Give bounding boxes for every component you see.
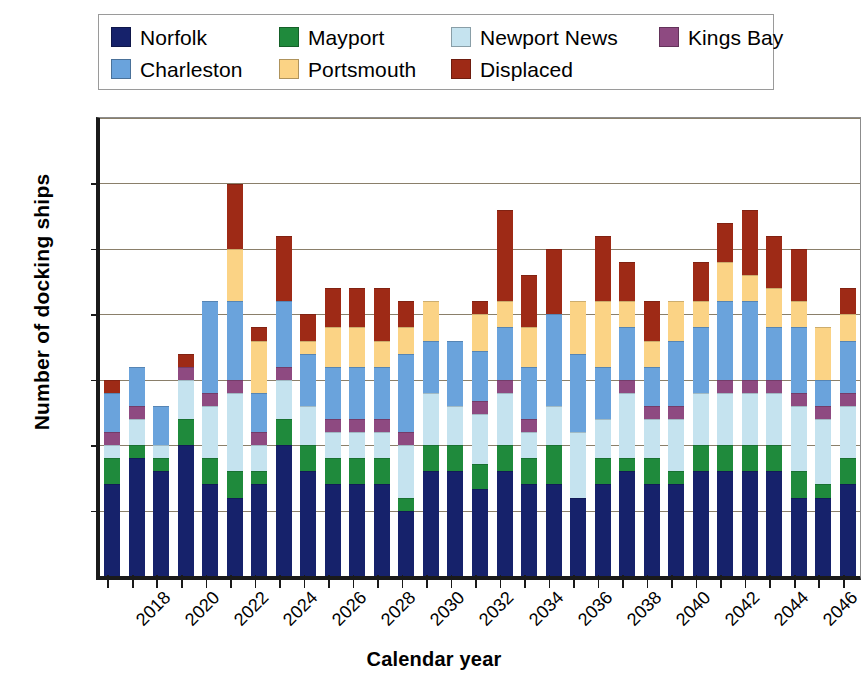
bar-segment-norfolk xyxy=(668,484,684,576)
bar-segment-kings-bay xyxy=(840,393,856,406)
x-tick-mark xyxy=(720,575,722,588)
bar-segment-charleston xyxy=(668,341,684,406)
legend-item-kings-bay[interactable]: Kings Bay xyxy=(659,27,783,48)
stacked-bar[interactable] xyxy=(644,301,660,576)
stacked-bar[interactable] xyxy=(251,327,267,576)
bar-segment-newport-news xyxy=(227,393,243,472)
bar-segment-newport-news xyxy=(300,406,316,445)
stacked-bar[interactable] xyxy=(276,236,292,576)
bar-segment-portsmouth xyxy=(349,327,365,366)
bar-segment-mayport xyxy=(276,419,292,445)
bar-segment-displaced xyxy=(693,262,709,301)
bar-segment-mayport xyxy=(325,458,341,484)
legend-item-norfolk[interactable]: Norfolk xyxy=(111,27,207,48)
legend-label: Norfolk xyxy=(140,27,207,48)
stacked-bar[interactable] xyxy=(693,262,709,576)
stacked-bar[interactable] xyxy=(178,354,194,576)
stacked-bar[interactable] xyxy=(374,288,390,576)
legend-item-charleston[interactable]: Charleston xyxy=(111,59,243,80)
bar-segment-newport-news xyxy=(251,445,267,471)
stacked-bar[interactable] xyxy=(104,380,120,576)
bar-segment-mayport xyxy=(153,458,169,471)
y-tick-mark xyxy=(91,249,100,251)
bar-segment-displaced xyxy=(276,236,292,301)
stacked-bar[interactable] xyxy=(840,288,856,576)
bar-segment-newport-news xyxy=(497,393,513,445)
bar-segment-newport-news xyxy=(178,380,194,419)
stacked-bar[interactable] xyxy=(791,249,807,576)
stacked-bar[interactable] xyxy=(546,236,562,576)
x-tick-mark xyxy=(132,575,134,588)
bar-segment-displaced xyxy=(472,301,488,314)
legend-swatch-icon xyxy=(111,59,131,79)
bar-segment-norfolk xyxy=(300,471,316,576)
legend-item-mayport[interactable]: Mayport xyxy=(279,27,385,48)
bar-segment-mayport xyxy=(742,445,758,471)
bar-segment-charleston xyxy=(325,367,341,419)
stacked-bar[interactable] xyxy=(595,236,611,576)
bar-segment-portsmouth xyxy=(423,301,439,340)
bar-segment-kings-bay xyxy=(791,393,807,406)
stacked-bar[interactable] xyxy=(717,223,733,576)
bar-segment-kings-bay xyxy=(276,367,292,380)
bar-segment-charleston xyxy=(202,301,218,393)
bar-segment-kings-bay xyxy=(398,432,414,445)
legend-item-newport-news[interactable]: Newport News xyxy=(451,27,618,48)
stacked-bar[interactable] xyxy=(668,301,684,576)
stacked-bar[interactable] xyxy=(497,210,513,576)
bar-segment-displaced xyxy=(398,301,414,327)
bar-segment-mayport xyxy=(717,445,733,471)
bar-segment-newport-news xyxy=(276,380,292,419)
stacked-bar[interactable] xyxy=(447,340,463,576)
stacked-bar[interactable] xyxy=(570,301,586,576)
bar-segment-charleston xyxy=(595,367,611,419)
bar-segment-charleston xyxy=(742,301,758,380)
stacked-bar[interactable] xyxy=(129,367,145,576)
stacked-bar[interactable] xyxy=(227,183,243,576)
bar-segment-newport-news xyxy=(447,406,463,445)
bar-segment-mayport xyxy=(374,458,390,484)
stacked-bar[interactable] xyxy=(521,275,537,576)
bar-segment-portsmouth xyxy=(227,249,243,301)
y-tick-mark xyxy=(91,183,100,185)
bar-segment-displaced xyxy=(178,354,194,367)
bar-segment-norfolk xyxy=(178,445,194,576)
stacked-bar[interactable] xyxy=(766,236,782,576)
bar-segment-newport-news xyxy=(644,419,660,458)
bar-segment-charleston xyxy=(153,406,169,445)
x-tick-label: 2038 xyxy=(623,588,664,629)
bar-segment-portsmouth xyxy=(766,288,782,327)
stacked-bar[interactable] xyxy=(153,406,169,576)
bar-segment-newport-news xyxy=(423,393,439,445)
bar-segment-norfolk xyxy=(570,498,586,577)
stacked-bar[interactable] xyxy=(349,288,365,576)
stacked-bar[interactable] xyxy=(398,301,414,576)
legend-swatch-icon xyxy=(279,27,299,47)
x-tick-mark xyxy=(328,575,330,588)
stacked-bar[interactable] xyxy=(472,301,488,576)
bar-segment-newport-news xyxy=(791,406,807,471)
x-tick-mark xyxy=(818,575,820,588)
bar-segment-portsmouth xyxy=(472,314,488,351)
stacked-bar[interactable] xyxy=(202,301,218,576)
bar-segment-newport-news xyxy=(766,393,782,445)
legend-item-displaced[interactable]: Displaced xyxy=(451,59,573,80)
legend-swatch-icon xyxy=(279,59,299,79)
stacked-bar[interactable] xyxy=(619,262,635,576)
stacked-bar[interactable] xyxy=(300,314,316,576)
stacked-bar[interactable] xyxy=(325,288,341,576)
bar-segment-displaced xyxy=(644,301,660,340)
bar-segment-portsmouth xyxy=(521,327,537,366)
legend-item-portsmouth[interactable]: Portsmouth xyxy=(279,59,416,80)
x-axis-title: Calendar year xyxy=(0,648,868,671)
bar-segment-kings-bay xyxy=(227,380,243,393)
stacked-bar[interactable] xyxy=(742,210,758,576)
bar-segment-newport-news xyxy=(374,432,390,458)
stacked-bar[interactable] xyxy=(423,301,439,576)
bar-segment-charleston xyxy=(521,367,537,419)
bar-segment-displaced xyxy=(717,223,733,262)
bar-segment-mayport xyxy=(595,458,611,484)
bar-segment-norfolk xyxy=(251,484,267,576)
x-tick-mark xyxy=(304,575,306,588)
stacked-bar[interactable] xyxy=(815,327,831,576)
